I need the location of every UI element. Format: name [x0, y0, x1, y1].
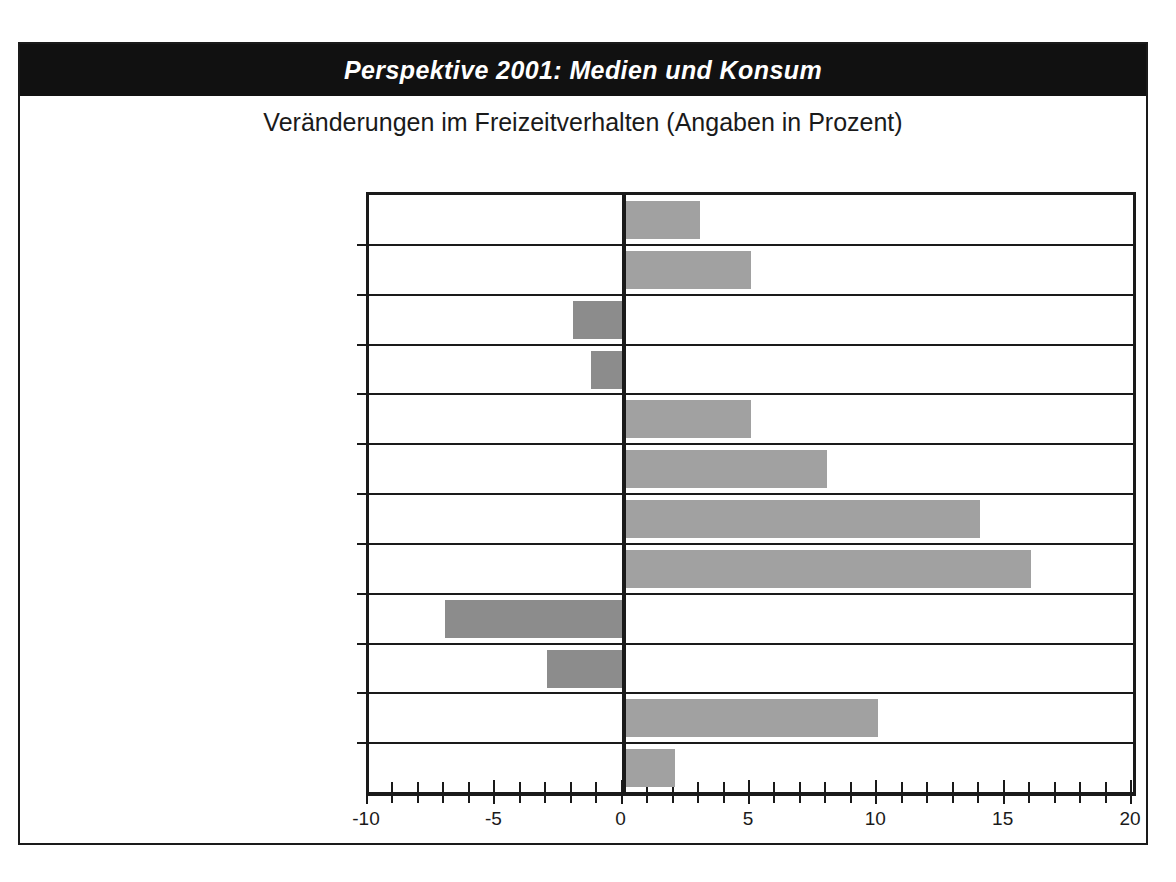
- x-tick-major: [875, 780, 877, 804]
- category-label: Freizeitparks besuchen: [0, 195, 3, 245]
- row-separator: [357, 294, 1133, 296]
- category-label: ins Kino gehen: [0, 245, 3, 295]
- chart-area: Freizeitparks besuchenins Kino gehenTanz…: [20, 148, 1150, 845]
- x-tick-minor: [723, 782, 725, 803]
- x-tick-major: [1003, 780, 1005, 804]
- x-tick-major: [366, 780, 368, 804]
- row-separator: [357, 344, 1133, 346]
- x-tick-minor: [824, 782, 826, 803]
- bar: [547, 650, 623, 688]
- x-tick-major: [748, 780, 750, 804]
- x-tick-minor: [1079, 782, 1081, 803]
- row-separator: [357, 244, 1133, 246]
- header-band: Perspektive 2001: Medien und Konsum: [20, 44, 1146, 96]
- bar: [573, 301, 624, 339]
- row-separator: [357, 742, 1133, 744]
- chart-row: Essengehen: [369, 494, 1133, 544]
- row-separator: [357, 393, 1133, 395]
- x-tick-minor: [595, 782, 597, 803]
- x-tick-label: 20: [1119, 808, 1140, 830]
- bar: [624, 450, 828, 488]
- x-tick-minor: [977, 782, 979, 803]
- x-tick-minor: [544, 782, 546, 803]
- row-separator: [357, 643, 1133, 645]
- bar: [624, 699, 879, 737]
- chart-row: Radiohören: [369, 693, 1133, 743]
- x-tick-major: [493, 780, 495, 804]
- bar: [591, 351, 624, 389]
- bar: [624, 400, 751, 438]
- x-tick-label: 15: [992, 808, 1013, 830]
- x-tick-label: 0: [615, 808, 626, 830]
- x-tick-minor: [519, 782, 521, 803]
- category-label: eine Zeitung/Illustrierte lesen: [0, 644, 3, 694]
- category-label: Fernsehen: [0, 743, 3, 793]
- bar: [624, 550, 1031, 588]
- category-label: in die Kneipe gehen: [0, 444, 3, 494]
- row-separator: [357, 493, 1133, 495]
- x-tick-label: -5: [485, 808, 502, 830]
- x-tick-label: 5: [743, 808, 754, 830]
- x-tick-label: -10: [352, 808, 379, 830]
- chart-subtitle: Veränderungen im Freizeitverhalten (Anga…: [20, 96, 1146, 148]
- bar: [624, 251, 751, 289]
- category-label: Tanzen, in die Disco gehen: [0, 295, 3, 345]
- x-tick-major: [1130, 780, 1132, 804]
- x-tick-minor: [697, 782, 699, 803]
- chart-row: in die Kneipe gehen: [369, 444, 1133, 494]
- row-separator: [357, 692, 1133, 694]
- row-separator: [357, 593, 1133, 595]
- x-axis: -10-505101520: [366, 792, 1136, 842]
- category-label: Essengehen: [0, 494, 3, 544]
- category-label: ein Volksfest, eine Kirmes besuchen: [0, 394, 3, 444]
- bar: [624, 749, 675, 787]
- x-tick-label: 10: [865, 808, 886, 830]
- poster-frame: Perspektive 2001: Medien und Konsum Verä…: [18, 42, 1148, 845]
- chart-row: Sportveranstaltungen zusehen: [369, 345, 1133, 395]
- chart-row: einen Einkaufsbummel machen: [369, 544, 1133, 594]
- x-tick-minor: [901, 782, 903, 803]
- x-tick-minor: [1054, 782, 1056, 803]
- x-tick-minor: [442, 782, 444, 803]
- x-tick-minor: [468, 782, 470, 803]
- x-tick-minor: [799, 782, 801, 803]
- x-tick-minor: [1105, 782, 1107, 803]
- chart-row: Tanzen, in die Disco gehen: [369, 295, 1133, 345]
- bar: [445, 600, 623, 638]
- chart-row: ins Kino gehen: [369, 245, 1133, 295]
- x-tick-minor: [417, 782, 419, 803]
- chart-row: ein Volksfest, eine Kirmes besuchen: [369, 394, 1133, 444]
- x-tick-minor: [1028, 782, 1030, 803]
- plot-frame: Freizeitparks besuchenins Kino gehenTanz…: [366, 192, 1136, 796]
- category-label: einen Einkaufsbummel machen: [0, 544, 3, 594]
- chart-row: ein Buch lesen: [369, 594, 1133, 644]
- chart-row: eine Zeitung/Illustrierte lesen: [369, 644, 1133, 694]
- category-label: Sportveranstaltungen zusehen: [0, 345, 3, 395]
- category-label: Radiohören: [0, 693, 3, 743]
- bar: [624, 201, 700, 239]
- page-title: Perspektive 2001: Medien und Konsum: [344, 56, 822, 85]
- zero-axis-line: [622, 195, 626, 793]
- x-tick-minor: [773, 782, 775, 803]
- row-separator: [357, 543, 1133, 545]
- x-tick-minor: [952, 782, 954, 803]
- row-separator: [357, 443, 1133, 445]
- chart-row: Fernsehen: [369, 743, 1133, 793]
- chart-row: Freizeitparks besuchen: [369, 195, 1133, 245]
- category-label: ein Buch lesen: [0, 594, 3, 644]
- x-tick-minor: [850, 782, 852, 803]
- bar: [624, 500, 981, 538]
- x-tick-minor: [391, 782, 393, 803]
- x-tick-minor: [926, 782, 928, 803]
- x-tick-minor: [570, 782, 572, 803]
